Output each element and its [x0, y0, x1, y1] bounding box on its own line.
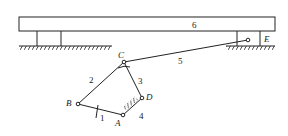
label-E: E	[263, 34, 270, 44]
label-D: D	[145, 92, 153, 102]
joint-C	[122, 60, 126, 64]
slider-frame-6	[19, 17, 275, 31]
mechanism-diagram: 6 E C 5 2 3 B D 1 A 4	[0, 0, 288, 136]
joint-slider	[246, 38, 250, 42]
joint-B	[76, 102, 80, 106]
joint-A	[121, 113, 125, 117]
label-C: C	[118, 50, 125, 60]
rotation-arrow-1-icon	[96, 105, 98, 118]
ground-hatch-left	[19, 46, 112, 50]
label-1: 1	[100, 113, 105, 123]
label-A: A	[114, 118, 121, 128]
label-5: 5	[178, 56, 183, 66]
link-2	[78, 62, 124, 104]
label-2: 2	[89, 75, 94, 85]
label-3: 3	[138, 76, 143, 86]
joint-D	[140, 96, 144, 100]
mechanism-svg: 6 E C 5 2 3 B D 1 A 4	[0, 0, 288, 136]
link-5	[124, 40, 248, 62]
label-4: 4	[139, 111, 144, 121]
label-B: B	[66, 98, 72, 108]
ground-hatch-right	[226, 46, 275, 50]
label-6: 6	[192, 20, 197, 30]
